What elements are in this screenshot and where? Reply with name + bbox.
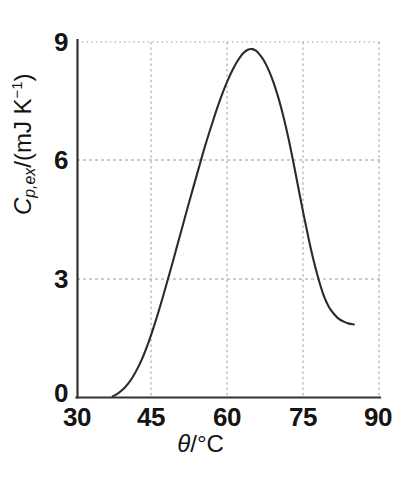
x-tick-label-45: 45 [137, 404, 165, 430]
axis-lines-group [77, 40, 381, 398]
chart-figure: 9 6 3 0 30 45 60 75 90 θ/°C Cp,ex/(mJ K−… [0, 0, 401, 477]
y-tick-label-3: 3 [40, 266, 68, 292]
x-axis-title-slash: / [190, 430, 197, 457]
x-axis-title-unit: °C [197, 430, 224, 457]
y-tick-label-9: 9 [40, 29, 68, 55]
x-axis-title: θ/°C [0, 432, 401, 456]
y-axis-title-close: ) [9, 73, 36, 81]
y-axis-title-subscript: p,ex [21, 168, 38, 198]
y-tick-label-6: 6 [40, 147, 68, 173]
y-axis-title: Cp,ex/(mJ K−1) [10, 44, 38, 244]
y-axis-title-slash: /(mJ K [9, 98, 36, 167]
x-axis-title-symbol: θ [177, 430, 190, 457]
gridlines-group [77, 42, 380, 397]
x-tick-label-75: 75 [289, 404, 317, 430]
x-tick-label-60: 60 [213, 404, 241, 430]
x-tick-label-90: 90 [364, 404, 392, 430]
y-axis-title-symbol: C [9, 198, 36, 215]
data-series-curve [113, 49, 354, 396]
y-axis-title-superscript: −1 [9, 81, 25, 98]
x-tick-label-30: 30 [63, 404, 91, 430]
